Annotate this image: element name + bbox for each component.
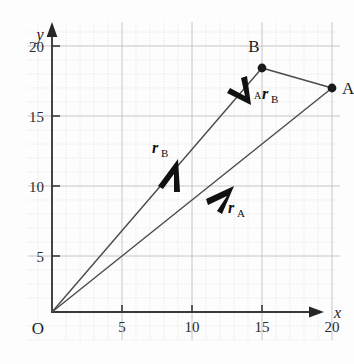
figure-container: 5 10 15 20 5 10 15 20 x y O [0,0,354,364]
vector-label-arb-main: r [262,85,269,102]
vector-label-rb-main: r [152,139,159,156]
point-label-b: B [248,37,259,56]
point-marker-b [258,64,267,73]
y-tick-label-10: 10 [29,179,44,195]
vector-label-arb-presub: A [254,90,262,101]
y-axis-label: y [34,26,44,44]
x-tick-label-15: 15 [255,319,270,335]
vector-label-ra-sub: A [237,207,245,219]
x-tick-label-5: 5 [118,319,126,335]
y-tick-label-5: 5 [37,249,45,265]
origin-label: O [32,319,44,338]
vector-label-arb-sub: B [271,93,278,105]
point-label-a: A [342,79,354,98]
vector-label-rb-sub: B [161,147,168,159]
x-tick-label-10: 10 [185,319,200,335]
point-marker-a [328,84,337,93]
plot-background [28,22,340,340]
x-tick-label-20: 20 [325,319,340,335]
y-tick-label-15: 15 [29,109,44,125]
vector-label-ra-main: r [228,199,235,216]
vector-diagram: 5 10 15 20 5 10 15 20 x y O [0,0,354,364]
x-axis-label: x [333,304,341,321]
